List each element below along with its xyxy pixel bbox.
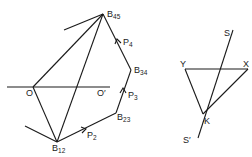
label-o-prime: O′ [97, 88, 106, 98]
label-p3: P3 [128, 90, 138, 101]
label-x: X [243, 59, 249, 69]
line-x-k [203, 69, 248, 114]
label-b34: B34 [134, 65, 148, 76]
label-s-prime: S′ [183, 135, 191, 145]
label-y: Y [180, 59, 186, 69]
extension-line-top [64, 14, 103, 30]
label-s: S [224, 28, 230, 38]
label-p4: P4 [123, 37, 133, 48]
line-y-k [185, 69, 203, 114]
funicular-polygon: B45 B34 B23 B12 O O′ P4 P3 P2 [7, 9, 148, 154]
funicular-polygon-diagram: B45 B34 B23 B12 O O′ P4 P3 P2 S S′ Y X K [0, 0, 252, 157]
line-o-b12 [33, 87, 57, 142]
label-b12: B12 [52, 143, 66, 154]
label-o: O [26, 88, 33, 98]
line-o-b45 [33, 14, 103, 87]
force-triangle: S S′ Y X K [180, 28, 249, 145]
label-k: K [204, 116, 210, 126]
label-p2: P2 [87, 130, 97, 141]
label-b23: B23 [117, 112, 131, 123]
extension-line-bottom [25, 126, 57, 142]
label-b45: B45 [107, 9, 121, 20]
